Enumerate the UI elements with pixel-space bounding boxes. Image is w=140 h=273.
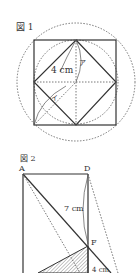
figure1-title: 図 1 xyxy=(16,22,34,32)
dotted-line-a xyxy=(23,174,80,273)
vertex-f: F xyxy=(91,238,97,247)
figure2-title: 図 2 xyxy=(20,154,36,163)
outer-square xyxy=(34,40,116,125)
label-a: ア xyxy=(79,59,86,67)
length-label-4cm: 4 cm xyxy=(51,65,74,75)
arc-i xyxy=(34,86,66,125)
length-label-bottom: 4 cm xyxy=(92,266,110,273)
dotted-line-d xyxy=(88,174,118,273)
geometry-diagram: 図 1 4 cm ア イ 図 2 A D F 7 cm 4 cm xyxy=(0,0,140,273)
vertex-a: A xyxy=(18,164,25,173)
vertex-d: D xyxy=(84,164,90,173)
arc-7cm xyxy=(83,175,88,244)
label-i: イ xyxy=(51,94,58,102)
hatched-triangle xyxy=(38,246,88,273)
inner-square xyxy=(34,40,116,125)
length-label-7cm: 7 cm xyxy=(64,204,84,213)
